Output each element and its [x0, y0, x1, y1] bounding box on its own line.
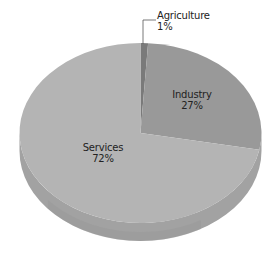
industry-name: Industry [172, 90, 212, 100]
industry-pct: 27% [172, 101, 212, 111]
industry-label: Industry 27% [172, 90, 212, 111]
pie-top-face [19, 43, 261, 223]
agriculture-pct: 1% [157, 22, 210, 32]
agriculture-name: Agriculture [157, 11, 210, 21]
services-pct: 72% [80, 154, 126, 164]
agriculture-label: Agriculture 1% [157, 11, 210, 32]
agriculture-leader-line [143, 20, 156, 44]
services-label: Services 72% [80, 143, 126, 164]
services-name: Services [80, 143, 126, 153]
pie-chart [0, 0, 277, 255]
